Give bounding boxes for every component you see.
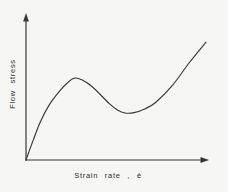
x-axis-arrowhead-icon <box>201 157 210 163</box>
flow-stress-curve <box>26 42 206 160</box>
x-axis-label: Strain rate , ė <box>74 171 142 180</box>
chart-canvas: Flow stress Strain rate , ė <box>0 0 228 192</box>
figure: Flow stress Strain rate , ė <box>0 0 228 192</box>
y-axis-arrowhead-icon <box>23 13 29 22</box>
axes <box>25 21 202 161</box>
y-axis-label: Flow stress <box>8 59 17 109</box>
